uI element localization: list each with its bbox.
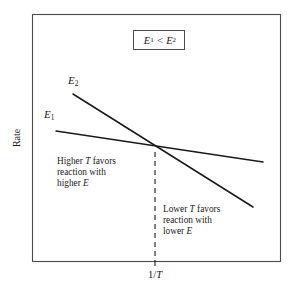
plot-frame [33, 15, 281, 262]
arrhenius-rate-vs-inverse-temperature-figure: E1 < E2 E2 E1 Higher T favorsreaction wi… [0, 0, 299, 293]
curve-label-e2-symbol: E [68, 74, 75, 86]
higher-temperature-annotation: Higher T favorsreaction withhigher E [57, 156, 116, 189]
curve-label-e2-subscript: 2 [75, 79, 79, 88]
lower-temp-line1-suffix: favors [195, 204, 221, 214]
lower-temperature-annotation: Lower T favorsreaction withlower E [163, 204, 220, 237]
x-axis-title-numerator: 1/ [148, 269, 156, 280]
inequality-rhs-subscript: 2 [173, 36, 177, 44]
lower-temp-line3-prefix: lower [163, 226, 187, 236]
x-axis-title: 1/T [132, 269, 178, 281]
higher-temp-line3-prefix: higher [57, 178, 83, 188]
inequality-annotation-text: E1 < E2 [134, 31, 186, 49]
higher-temp-line1-prefix: Higher [57, 156, 85, 166]
curve-label-e1-symbol: E [44, 108, 51, 120]
higher-temp-line3-variable: E [83, 178, 89, 188]
curve-label-e1-subscript: 1 [51, 113, 55, 122]
lower-temp-line2: reaction with [163, 215, 212, 225]
higher-temp-line1-suffix: favors [90, 156, 116, 166]
lower-temp-line3-variable: E [187, 226, 193, 236]
higher-temp-line2: reaction with [57, 167, 106, 177]
curve-label-e1: E1 [44, 108, 54, 123]
inequality-annotation-box: E1 < E2 [133, 30, 185, 50]
lower-temp-line1-prefix: Lower [163, 204, 190, 214]
y-axis-title: Rate [11, 113, 23, 163]
inequality-relation: < [154, 35, 166, 46]
x-axis-title-variable: T [156, 269, 162, 280]
curve-label-e2: E2 [68, 74, 78, 89]
